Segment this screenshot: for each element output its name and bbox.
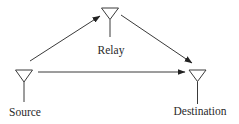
edge-relay-to-destination xyxy=(121,15,192,63)
destination-antenna-icon xyxy=(189,70,206,104)
source-antenna-icon xyxy=(16,70,33,102)
destination-label: Destination xyxy=(173,106,226,118)
source-label: Source xyxy=(9,107,41,119)
relay-label: Relay xyxy=(98,45,125,57)
edge-source-to-relay xyxy=(30,16,100,61)
relay-antenna-icon xyxy=(102,8,119,37)
